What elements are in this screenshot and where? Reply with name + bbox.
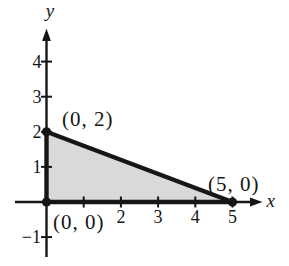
x-axis-label: x xyxy=(266,190,276,211)
y-axis-arrow-icon xyxy=(42,29,51,42)
y-axis-label: y xyxy=(44,0,55,21)
x-tick-label-5: 5 xyxy=(228,207,237,227)
y-tick-label-neg-1: −1 xyxy=(22,227,41,247)
x-tick-label-3: 3 xyxy=(154,207,163,227)
y-tick-label-2: 2 xyxy=(33,122,42,142)
x-axis-arrow-icon xyxy=(250,198,263,207)
triangle-figure: y x 2 3 4 5 4 3 2 1 −1 (0, 2) (5, 0) (0,… xyxy=(0,0,289,266)
y-tick-label-4: 4 xyxy=(33,52,42,72)
y-tick-label-1: 1 xyxy=(33,157,42,177)
x-tick-label-2: 2 xyxy=(116,207,125,227)
vertex-point-0-0 xyxy=(42,197,51,206)
vertex-label-0-0: (0, 0) xyxy=(53,210,105,234)
x-tick-label-4: 4 xyxy=(191,207,200,227)
vertex-point-0-2 xyxy=(42,127,51,136)
vertex-point-5-0 xyxy=(228,197,237,206)
coordinate-plane: y x 2 3 4 5 4 3 2 1 −1 (0, 2) (5, 0) (0,… xyxy=(0,0,289,266)
y-tick-label-3: 3 xyxy=(33,87,42,107)
vertex-label-0-2: (0, 2) xyxy=(62,107,114,131)
vertex-label-5-0: (5, 0) xyxy=(208,172,260,196)
